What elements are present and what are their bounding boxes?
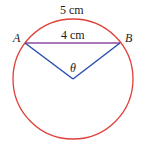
angle-theta-label: θ [70, 62, 76, 74]
point-a-label: A [13, 32, 20, 44]
radius-a [25, 43, 73, 79]
circle-diagram: 5 cm 4 cm A B θ [0, 0, 142, 145]
chord-length-label: 4 cm [61, 29, 85, 41]
point-b-label: B [125, 32, 132, 44]
radius-b [73, 43, 120, 79]
arc-length-label: 5 cm [60, 4, 84, 16]
